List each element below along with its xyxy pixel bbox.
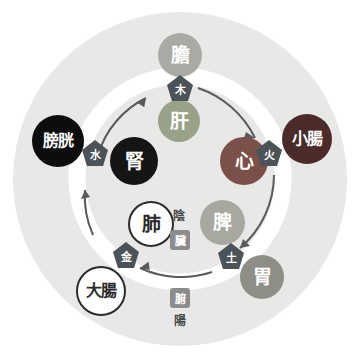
zang-organ-liver-label: 肝 bbox=[170, 112, 189, 131]
fu-organ-gallbladder-label: 膽 bbox=[171, 46, 190, 65]
fu-organ-stomach[interactable]: 胃 bbox=[240, 255, 284, 299]
phase-metal-label: 金 bbox=[121, 248, 132, 264]
zang-organ-heart-label: 心 bbox=[235, 152, 254, 171]
zang-organ-kidney-label: 腎 bbox=[125, 152, 144, 171]
zang-organ-spleen-label: 脾 bbox=[213, 213, 232, 232]
phase-fire-label: 火 bbox=[264, 146, 275, 162]
zang-organ-liver[interactable]: 肝 bbox=[158, 100, 200, 142]
fu-organ-large-intestine[interactable]: 大腸 bbox=[76, 266, 126, 316]
zang-organ-lung-label: 肺 bbox=[142, 215, 161, 234]
fu-organ-stomach-label: 胃 bbox=[253, 268, 272, 287]
five-elements-diagram: 膽 小腸 胃 大腸 膀胱 肝 心 脾 肺 腎 木 火 土 bbox=[0, 0, 360, 363]
fu-organ-gallbladder[interactable]: 膽 bbox=[158, 33, 202, 77]
fu-organ-small-intestine[interactable]: 小腸 bbox=[282, 114, 332, 164]
zang-organ-spleen[interactable]: 脾 bbox=[200, 200, 245, 245]
legend-zang-text: 臟 bbox=[175, 232, 186, 248]
legend-fu-badge: 腑 bbox=[170, 288, 190, 308]
fu-organ-bladder-label: 膀胱 bbox=[43, 133, 73, 149]
fu-organ-large-intestine-label: 大腸 bbox=[86, 283, 116, 299]
zang-organ-lung[interactable]: 肺 bbox=[128, 201, 174, 247]
phase-wood-label: 木 bbox=[175, 81, 186, 97]
zang-organ-kidney[interactable]: 腎 bbox=[110, 137, 158, 185]
legend-fu-text: 腑 bbox=[175, 290, 186, 306]
phase-earth-label: 土 bbox=[226, 249, 237, 265]
fu-organ-small-intestine-label: 小腸 bbox=[292, 131, 322, 147]
legend-yin-label: 陰 bbox=[173, 210, 185, 222]
fu-organ-bladder[interactable]: 膀胱 bbox=[32, 115, 84, 167]
legend-zang-badge: 臟 bbox=[170, 230, 190, 250]
legend-yang-text: 陽 bbox=[174, 314, 186, 328]
legend-yin-text: 陰 bbox=[173, 209, 185, 223]
phase-water-label: 水 bbox=[90, 146, 101, 162]
legend-yang-label: 陽 bbox=[174, 315, 186, 327]
